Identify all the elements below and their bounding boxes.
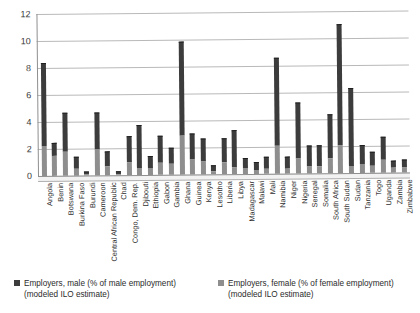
- bar[interactable]: [200, 138, 205, 174]
- bar[interactable]: [380, 137, 385, 173]
- bar[interactable]: [62, 113, 68, 176]
- bar[interactable]: [116, 171, 121, 175]
- bar[interactable]: [190, 133, 195, 175]
- category-slot: Ghana: [177, 180, 188, 268]
- category-slot: Tanzania: [357, 178, 368, 266]
- bar-segment-male: [370, 152, 375, 167]
- bar-segment-male: [391, 160, 396, 168]
- bar[interactable]: [370, 152, 375, 173]
- y-tick-label: 0: [10, 172, 32, 181]
- bar[interactable]: [317, 145, 322, 173]
- bar-segment-male: [232, 130, 237, 167]
- category-slot: Benin: [50, 181, 61, 269]
- category-slot: Guinea: [187, 179, 198, 267]
- category-slot: Lesotho: [209, 179, 220, 267]
- bar-series-group: [37, 10, 410, 176]
- bar[interactable]: [254, 162, 259, 174]
- bar[interactable]: [73, 157, 78, 176]
- category-slot: Namibia: [272, 179, 283, 267]
- bar-segment-female: [105, 166, 110, 175]
- category-slot: Nigeria: [293, 178, 304, 266]
- legend-label-line2: (modeled ILO estimate): [24, 289, 176, 300]
- bar-segment-female: [338, 145, 343, 173]
- category-slot: Somalia: [314, 178, 325, 266]
- plot-skew-layer: 024681012 AngolaBeninBotswanaBurkina Fas…: [0, 0, 420, 268]
- category-slot: Gabon: [156, 180, 167, 268]
- bar-segment-male: [274, 58, 280, 145]
- bar[interactable]: [337, 24, 343, 174]
- bar[interactable]: [126, 136, 131, 175]
- bar-segment-male: [295, 102, 301, 158]
- category-slot: Burundi: [81, 181, 92, 269]
- legend-item[interactable]: Employers, male (% of male employment)(m…: [14, 278, 200, 300]
- bar[interactable]: [169, 148, 174, 175]
- bar-segment-female: [296, 159, 301, 174]
- bar[interactable]: [285, 156, 290, 173]
- legend-label-line1: Employers, female (% of female employmen…: [228, 278, 394, 289]
- bar[interactable]: [84, 172, 89, 176]
- bar-segment-female: [264, 168, 269, 173]
- bar[interactable]: [327, 114, 333, 173]
- bar[interactable]: [391, 160, 396, 173]
- bar-segment-male: [94, 112, 99, 149]
- category-slot: Gambia: [166, 180, 177, 268]
- category-slot: Kenya: [198, 179, 209, 267]
- bar[interactable]: [148, 156, 153, 175]
- bar-segment-male: [380, 137, 385, 160]
- bar[interactable]: [41, 63, 47, 176]
- bar[interactable]: [402, 159, 407, 172]
- bar[interactable]: [232, 130, 237, 174]
- bar-segment-male: [148, 156, 153, 168]
- bar[interactable]: [274, 58, 280, 174]
- bar-segment-female: [222, 162, 227, 174]
- bar-segment-female: [74, 168, 79, 175]
- bar[interactable]: [178, 41, 184, 174]
- bar[interactable]: [243, 158, 248, 174]
- x-axis-categories: AngolaBeninBotswanaBurkina FasoBurundiCa…: [39, 177, 411, 269]
- bar-segment-female: [169, 164, 174, 175]
- bar-segment-male: [200, 138, 205, 161]
- bar[interactable]: [295, 102, 301, 173]
- bar-segment-male: [169, 148, 174, 164]
- category-slot: Angola: [39, 181, 50, 269]
- bar[interactable]: [222, 138, 227, 174]
- category-slot: Liberia: [219, 179, 230, 267]
- legend-item[interactable]: Employers, female (% of female employmen…: [218, 278, 404, 300]
- plot-area: 024681012 AngolaBeninBotswanaBurkina Fas…: [0, 0, 420, 268]
- bar-segment-male: [222, 138, 227, 162]
- bar[interactable]: [359, 145, 364, 173]
- category-slot: Burkina Faso: [71, 181, 82, 269]
- y-tick-label: 4: [9, 118, 31, 127]
- chart-page: 024681012 AngolaBeninBotswanaBurkina Fas…: [0, 0, 420, 313]
- bar[interactable]: [52, 142, 57, 175]
- category-slot: Libya: [230, 179, 241, 267]
- bar-slot[interactable]: [398, 10, 410, 172]
- bar[interactable]: [264, 157, 269, 174]
- bar-segment-female: [42, 146, 47, 176]
- bar-segment-female: [349, 166, 354, 173]
- category-slot: Sudan: [346, 178, 357, 266]
- bar-segment-female: [402, 168, 407, 173]
- bar[interactable]: [137, 125, 142, 175]
- legend-label: Employers, female (% of female employmen…: [228, 278, 394, 300]
- bar[interactable]: [158, 136, 163, 175]
- legend-label: Employers, male (% of male employment)(m…: [24, 278, 176, 300]
- y-tick-label: 2: [10, 145, 32, 154]
- bar[interactable]: [348, 88, 354, 173]
- category-slot: Mali: [262, 179, 273, 267]
- bar-segment-female: [126, 162, 131, 176]
- bar-segment-male: [158, 136, 163, 163]
- category-slot: Madagascar: [240, 179, 251, 267]
- bar-segment-female: [190, 160, 195, 175]
- bar[interactable]: [306, 145, 311, 173]
- y-tick-label: 8: [9, 64, 31, 73]
- bar[interactable]: [105, 151, 110, 175]
- bar[interactable]: [211, 165, 216, 174]
- bar-segment-female: [201, 162, 206, 175]
- bar-segment-female: [137, 168, 142, 175]
- category-slot: Botswana: [60, 181, 71, 269]
- bar[interactable]: [94, 112, 100, 175]
- bar-segment-male: [73, 157, 78, 168]
- bar-segment-male: [317, 145, 322, 166]
- bar-segment-male: [137, 125, 142, 167]
